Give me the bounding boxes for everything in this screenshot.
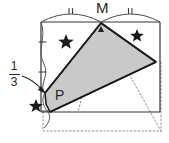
callout-arrow-shaft (22, 76, 42, 90)
fraction-numerator: 1 (6, 60, 22, 73)
geometry-figure: M P 1 3 (0, 0, 169, 143)
fraction-denominator: 3 (6, 76, 22, 89)
star-upper-left-icon (58, 34, 74, 49)
vertex-label-M: M (96, 0, 109, 15)
arc-left-half (41, 14, 101, 22)
flap-curve-left (41, 22, 46, 93)
vertex-label-P: P (55, 88, 64, 102)
star-upper-right-icon (130, 29, 143, 42)
geometry-svg (0, 0, 169, 143)
fraction-callout-arrow (22, 76, 46, 94)
arc-right-half (101, 14, 160, 22)
fraction-label-one-third: 1 3 (6, 60, 22, 88)
